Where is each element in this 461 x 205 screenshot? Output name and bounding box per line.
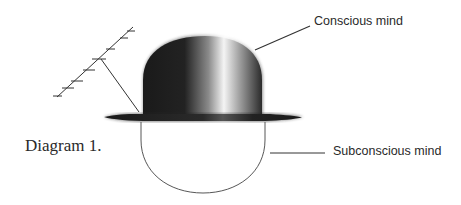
diagram-caption: Diagram 1. xyxy=(25,136,101,156)
subconscious-mind-label: Subconscious mind xyxy=(333,144,441,158)
conscious-mind-label: Conscious mind xyxy=(314,14,403,28)
bowler-hat-icon xyxy=(104,35,303,122)
mind-diagram xyxy=(0,0,461,205)
head-outline xyxy=(141,122,265,193)
conscious-leader-line xyxy=(255,26,310,50)
antenna-icon xyxy=(53,27,139,112)
